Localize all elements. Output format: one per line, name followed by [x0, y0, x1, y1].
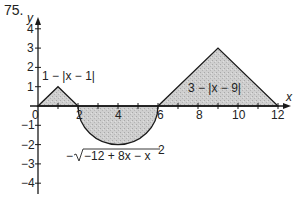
- x-tick-label-8: 8: [196, 108, 203, 122]
- x-tick-label-12: 12: [271, 108, 285, 122]
- annotation-f3: 3 − |x − 9|: [188, 81, 241, 95]
- y-tick-label-2: 2: [27, 60, 34, 74]
- y-tick-label-neg2: −2: [21, 138, 35, 152]
- y-axis-arrow-icon: [35, 17, 41, 25]
- y-tick-label-neg4: −4: [21, 176, 35, 190]
- y-tick-label-neg3: −3: [21, 157, 35, 171]
- x-tick-label-6: 6: [157, 108, 164, 122]
- annotation-f2-radicand: −12 + 8x − x: [84, 149, 150, 163]
- y-tick-label-4: 4: [27, 22, 34, 36]
- x-tick-label-2: 2: [76, 108, 83, 122]
- y-tick-label-neg1: −1: [21, 118, 35, 132]
- y-tick-label-3: 3: [27, 41, 34, 55]
- y-tick-label-1: 1: [27, 80, 34, 94]
- annotation-f2: − −12 + 8x − x 2: [66, 143, 165, 163]
- annotation-f2-exponent: 2: [158, 143, 165, 157]
- x-axis-label: x: [285, 90, 293, 104]
- annotation-f1: 1 − |x − 1|: [42, 69, 95, 83]
- annotation-f2-minus: −: [66, 149, 73, 163]
- chart: y x 0 2 4 6 8 10 12 4 3 2 1 −1 −2 −3 −4 …: [0, 0, 297, 201]
- region-f3: [158, 48, 278, 106]
- x-tick-label-10: 10: [232, 108, 246, 122]
- x-tick-label-4: 4: [115, 108, 122, 122]
